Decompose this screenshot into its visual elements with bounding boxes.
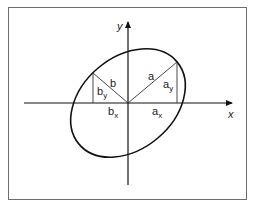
label-b-x-subscript: x bbox=[114, 111, 118, 120]
label-a-x-subscript: x bbox=[158, 111, 162, 120]
ellipse-diagram: y x a ay ax b by bx bbox=[0, 0, 254, 206]
label-b: b bbox=[110, 77, 116, 89]
label-a-y-subscript: y bbox=[169, 84, 173, 93]
x-axis-label: x bbox=[227, 108, 234, 120]
label-a: a bbox=[148, 70, 155, 82]
label-b-y-subscript: y bbox=[103, 91, 107, 100]
